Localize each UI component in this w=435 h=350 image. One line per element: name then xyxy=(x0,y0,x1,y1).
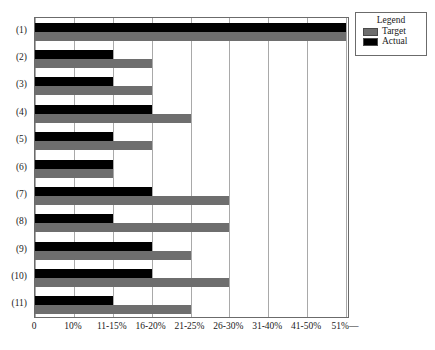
x-axis-label-8: 51%— xyxy=(332,322,359,332)
y-axis-label-2: (2) xyxy=(16,53,27,63)
x-axis-label-5: 26-30% xyxy=(213,322,243,332)
bar-chart: (1)(2)(3)(4)(5)(6)(7)(8)(9)(10)(11) 010%… xyxy=(0,0,435,350)
y-axis-label-1: (1) xyxy=(16,26,27,36)
plot-area xyxy=(34,17,349,318)
bar-actual-5 xyxy=(35,132,113,141)
gridline-41-50% xyxy=(307,18,308,317)
bar-actual-11 xyxy=(35,296,113,305)
bar-actual-3 xyxy=(35,77,113,86)
legend-item-actual: Actual xyxy=(363,37,422,47)
legend-swatch-actual xyxy=(363,38,378,46)
x-axis-label-1: 10% xyxy=(64,322,81,332)
gridline-51%— xyxy=(346,18,347,317)
bar-target-5 xyxy=(35,141,152,150)
legend-swatch-target xyxy=(363,28,378,36)
x-axis-label-2: 11-15% xyxy=(97,322,127,332)
y-axis-label-5: (5) xyxy=(16,135,27,145)
y-axis-labels: (1)(2)(3)(4)(5)(6)(7)(8)(9)(10)(11) xyxy=(0,17,31,318)
gridline-31-40% xyxy=(268,18,269,317)
bar-actual-9 xyxy=(35,242,152,251)
y-axis-label-8: (8) xyxy=(16,217,27,227)
x-axis-label-7: 41-50% xyxy=(291,322,321,332)
bar-target-2 xyxy=(35,59,152,68)
legend-label-actual: Actual xyxy=(382,37,407,47)
gridline-21-25% xyxy=(191,18,192,317)
x-axis-label-3: 16-20% xyxy=(136,322,166,332)
bar-actual-6 xyxy=(35,160,113,169)
y-axis-label-10: (10) xyxy=(11,272,27,282)
bar-target-9 xyxy=(35,251,191,260)
y-axis-label-6: (6) xyxy=(16,163,27,173)
x-axis-label-6: 31-40% xyxy=(252,322,282,332)
x-axis-label-0: 0 xyxy=(32,322,37,332)
bar-actual-8 xyxy=(35,214,113,223)
y-axis-label-9: (9) xyxy=(16,245,27,255)
bar-actual-4 xyxy=(35,105,152,114)
bar-target-3 xyxy=(35,86,152,95)
legend-label-target: Target xyxy=(382,27,406,37)
bar-target-7 xyxy=(35,196,229,205)
bar-target-10 xyxy=(35,278,229,287)
legend: Legend TargetActual xyxy=(355,12,427,56)
bar-target-4 xyxy=(35,114,191,123)
x-axis-label-4: 21-25% xyxy=(174,322,204,332)
legend-items: TargetActual xyxy=(360,27,422,47)
bar-target-6 xyxy=(35,169,113,178)
gridline-16-20% xyxy=(152,18,153,317)
bar-target-8 xyxy=(35,223,229,232)
legend-title: Legend xyxy=(360,15,422,26)
bar-actual-7 xyxy=(35,187,152,196)
bar-actual-2 xyxy=(35,50,113,59)
y-axis-label-3: (3) xyxy=(16,80,27,90)
x-axis-labels: 010%11-15%16-20%21-25%26-30%31-40%41-50%… xyxy=(0,320,435,342)
gridline-26-30% xyxy=(229,18,230,317)
y-axis-label-11: (11) xyxy=(12,299,27,309)
y-axis-label-4: (4) xyxy=(16,108,27,118)
y-axis-label-7: (7) xyxy=(16,190,27,200)
bar-actual-1 xyxy=(35,23,346,32)
bar-target-1 xyxy=(35,32,346,41)
bar-actual-10 xyxy=(35,269,152,278)
legend-item-target: Target xyxy=(363,27,422,37)
bar-target-11 xyxy=(35,305,191,314)
